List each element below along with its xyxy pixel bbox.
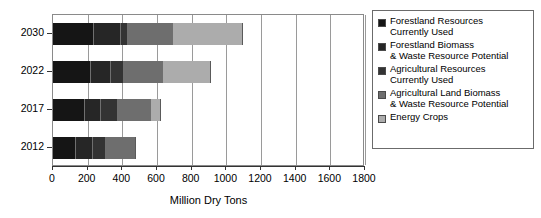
bar-segment — [151, 99, 161, 121]
bar-segment — [94, 23, 121, 45]
bar-segment — [121, 23, 128, 45]
x-tick-mark — [225, 166, 226, 170]
bar-segment — [53, 99, 85, 121]
legend-item: Forestland Biomass & Waste Resource Pote… — [378, 40, 529, 61]
x-tick-mark — [52, 166, 53, 170]
y-tick-label-2017: 2017 — [0, 103, 44, 114]
y-tick-mark — [47, 147, 52, 148]
bar-segment — [53, 137, 76, 159]
x-axis-title: Million Dry Tons — [52, 194, 365, 206]
bar-segment — [173, 23, 243, 45]
bar-segment — [93, 137, 106, 159]
bar-segment — [106, 137, 136, 159]
x-tick-mark — [260, 166, 261, 170]
legend-item-label: Forestland Biomass & Waste Resource Pote… — [390, 40, 508, 61]
x-tick-mark — [329, 166, 330, 170]
legend-item-label: Forestland Resources Currently Used — [390, 16, 483, 37]
x-tick-mark — [364, 166, 365, 170]
bar-stack-2022 — [53, 61, 211, 83]
bar-segment — [53, 23, 94, 45]
legend-item: Energy Crops — [378, 112, 529, 123]
x-tick-mark — [191, 166, 192, 170]
bar-segment — [124, 61, 163, 83]
bar-stack-2012 — [53, 137, 136, 159]
bar-stack-2030 — [53, 23, 243, 45]
gridline — [330, 15, 331, 165]
x-tick-mark — [121, 166, 122, 170]
gridline — [296, 15, 297, 165]
bar-stack-2017 — [53, 99, 161, 121]
legend-swatch-energy-crops — [378, 115, 386, 123]
y-tick-mark — [47, 33, 52, 34]
legend-swatch-agricultural-potential — [378, 91, 386, 99]
legend-swatch-forestland-potential — [378, 43, 386, 51]
y-tick-label-2012: 2012 — [0, 141, 44, 152]
legend-item: Forestland Resources Currently Used — [378, 16, 529, 37]
y-tick-label-2022: 2022 — [0, 65, 44, 76]
y-tick-label-2030: 2030 — [0, 27, 44, 38]
legend-item: Agricultural Resources Currently Used — [378, 64, 529, 85]
x-axis-line — [52, 166, 365, 167]
bar-segment — [128, 23, 173, 45]
chart-figure: 2030202220172012 02004006008001000120014… — [0, 0, 541, 218]
legend-swatch-agricultural-current — [378, 67, 386, 75]
legend: Forestland Resources Currently UsedFores… — [372, 10, 534, 149]
x-tick-mark — [295, 166, 296, 170]
y-tick-mark — [47, 71, 52, 72]
gridline — [261, 15, 262, 165]
y-tick-mark — [47, 109, 52, 110]
bar-segment — [118, 99, 151, 121]
legend-item: Agricultural Land Biomass & Waste Resour… — [378, 88, 529, 109]
x-tick-mark — [87, 166, 88, 170]
gridline — [365, 15, 366, 165]
x-tick-mark — [156, 166, 157, 170]
bar-segment — [163, 61, 211, 83]
plot-area — [52, 14, 364, 166]
bar-segment — [101, 99, 118, 121]
bar-segment — [53, 61, 91, 83]
x-tick-label: 1800 — [344, 172, 384, 184]
bar-segment — [85, 99, 101, 121]
legend-item-label: Agricultural Land Biomass & Waste Resour… — [390, 88, 508, 109]
legend-swatch-forestland-current — [378, 19, 386, 27]
legend-item-label: Energy Crops — [390, 112, 448, 123]
legend-item-label: Agricultural Resources Currently Used — [390, 64, 486, 85]
bar-segment — [76, 137, 93, 159]
bar-segment — [111, 61, 124, 83]
bar-segment — [91, 61, 111, 83]
